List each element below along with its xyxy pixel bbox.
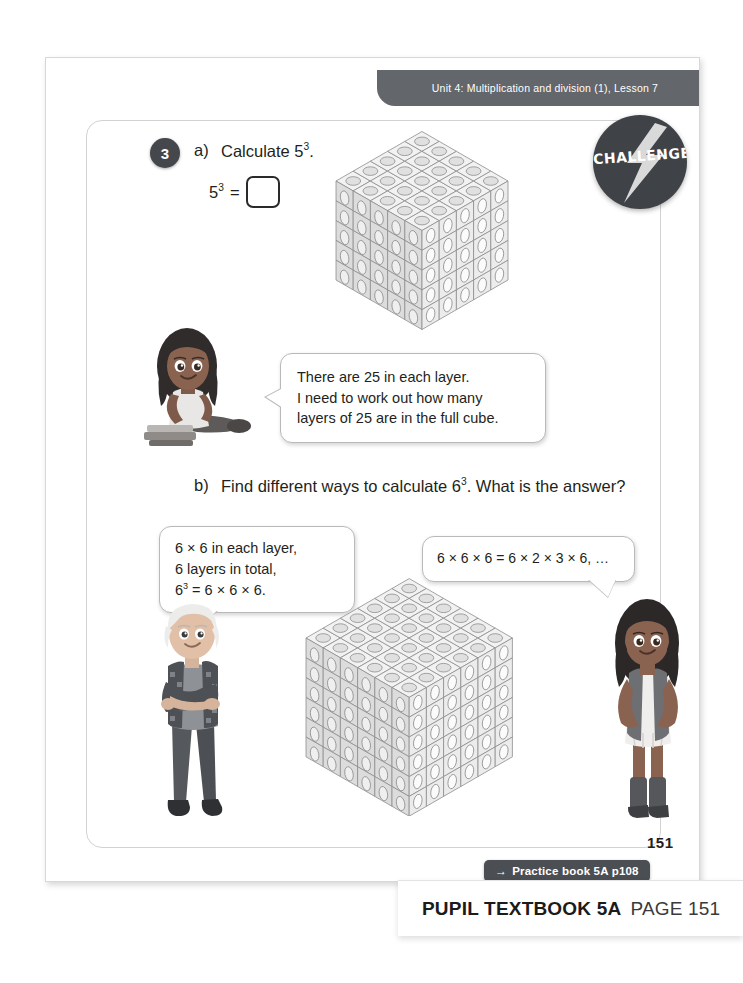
page-number: 151 (647, 834, 674, 851)
caption-band: PUPIL TEXTBOOK 5A PAGE 151 (398, 880, 743, 936)
bubble-a-line-1: There are 25 in each layer. (297, 367, 529, 388)
bubble-a-line-2: I need to work out how many (297, 388, 529, 409)
equation-base: 53 (209, 182, 224, 202)
part-a-equation: 53 = (209, 176, 280, 208)
part-b-marker: b) (194, 476, 209, 495)
equation-exponent: 3 (218, 182, 224, 193)
part-a-prompt: Calculate 53. (221, 141, 314, 161)
arrow-right-icon: → (495, 864, 507, 878)
equation-equals-sign: = (230, 183, 240, 202)
part-a-prompt-suffix: . (309, 142, 314, 160)
cube-5x5x5-illustration (327, 129, 517, 338)
character-girl-seated (139, 326, 271, 452)
caption-book-title: PUPIL TEXTBOOK 5A (422, 898, 621, 920)
question-number-badge: 3 (150, 138, 180, 168)
challenge-badge: CHALLENGE (593, 115, 687, 209)
question-number-label: 3 (161, 145, 169, 162)
speech-bubble-girl-standing: 6 × 6 × 6 = 6 × 2 × 3 × 6, … (422, 536, 635, 582)
answer-input-box[interactable] (246, 176, 280, 208)
part-b-prompt: Find different ways to calculate 63. Wha… (221, 476, 625, 496)
practice-book-link[interactable]: → Practice book 5A p108 (484, 860, 650, 882)
unit-header-label: Unit 4: Multiplication and division (1),… (432, 82, 658, 94)
speech-bubble-tail (266, 388, 283, 408)
part-b-prompt-prefix: Find different ways to calculate 6 (221, 477, 461, 495)
equation-base-value: 5 (209, 183, 218, 201)
textbook-page: Unit 4: Multiplication and division (1),… (45, 57, 700, 882)
cube-6x6x6-illustration (297, 576, 523, 820)
unit-header-bar: Unit 4: Multiplication and division (1),… (377, 70, 699, 106)
speech-bubble-girl-seated: There are 25 in each layer. I need to wo… (280, 353, 546, 443)
content-panel: 3 a) Calculate 53. 53 = (86, 120, 661, 848)
character-boy-standing (142, 596, 258, 840)
bubble-b2-line-1: 6 × 6 × 6 = 6 × 2 × 3 × 6, … (437, 549, 620, 569)
bubble-b1-line-1: 6 × 6 in each layer, (175, 538, 339, 559)
practice-book-link-label: Practice book 5A p108 (512, 865, 639, 877)
character-girl-standing (599, 591, 695, 840)
part-b-prompt-suffix: . What is the answer? (467, 477, 626, 495)
caption-page-label: PAGE 151 (630, 898, 720, 920)
bubble-a-line-3: layers of 25 are in the full cube. (297, 408, 529, 429)
part-a-marker: a) (194, 141, 209, 160)
part-a-prompt-prefix: Calculate 5 (221, 142, 304, 160)
